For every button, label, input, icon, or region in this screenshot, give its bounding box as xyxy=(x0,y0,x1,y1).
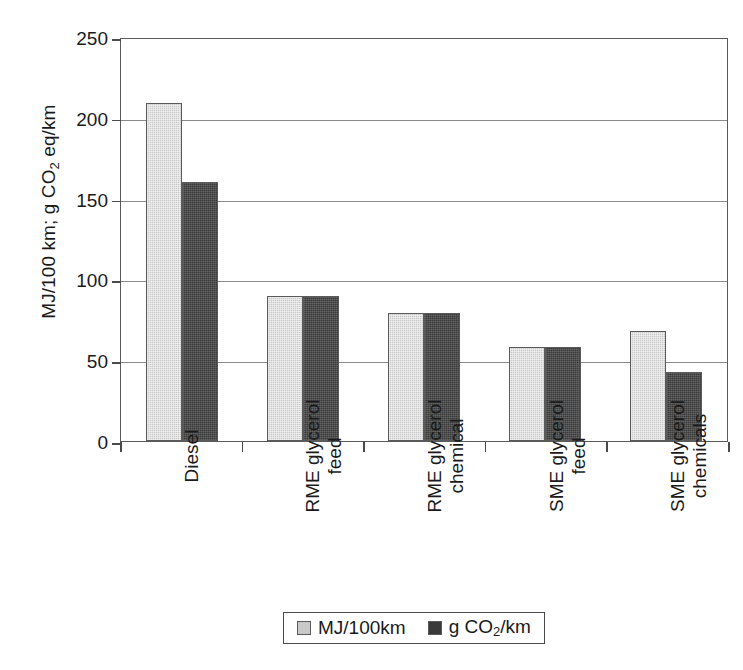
legend: MJ/100kmg CO2/km xyxy=(283,612,545,644)
legend-label: g CO2/km xyxy=(449,616,531,639)
y-tick-mark-100 xyxy=(112,281,121,283)
x-label-cell: SME glycerolfeed xyxy=(485,442,607,602)
x-axis-category-label: RME glycerolchemical xyxy=(424,400,468,513)
bar[interactable] xyxy=(388,313,424,441)
x-label-cell: RME glycerolfeed xyxy=(242,442,364,602)
x-label-cell: RME glycerolchemical xyxy=(363,442,485,602)
bar-group xyxy=(121,39,242,441)
y-axis-title-subscript: 2 xyxy=(47,162,62,169)
x-label-line-2: feed xyxy=(568,400,590,512)
bar-group xyxy=(606,39,727,441)
x-label-line-1: SME glycerol xyxy=(546,400,567,512)
x-label-line-1: SME glycerol xyxy=(667,400,688,512)
bar-group xyxy=(485,39,606,441)
y-tick-label-0: 0 xyxy=(48,432,108,454)
legend-item[interactable]: MJ/100km xyxy=(297,617,406,639)
bar-pair xyxy=(146,39,218,441)
y-tick-label-150: 150 xyxy=(48,190,108,212)
bar[interactable] xyxy=(182,182,218,441)
y-tick-label-250: 250 xyxy=(48,28,108,50)
x-axis-category-label: Diesel xyxy=(181,430,203,483)
bar-groups xyxy=(121,39,727,441)
bar-pair xyxy=(267,39,339,441)
x-axis-category-label: SME glycerolchemicals xyxy=(667,400,711,512)
bar[interactable] xyxy=(267,296,303,441)
bar-pair xyxy=(630,39,702,441)
bar[interactable] xyxy=(509,347,545,441)
x-axis-category-label: SME glycerolfeed xyxy=(546,400,590,512)
y-tick-label-200: 200 xyxy=(48,109,108,131)
legend-label: MJ/100km xyxy=(318,617,406,639)
x-label-cell: SME glycerolchemicals xyxy=(606,442,728,602)
x-label-line-2: feed xyxy=(324,400,346,513)
y-tick-mark-250 xyxy=(112,39,121,41)
bar-pair xyxy=(509,39,581,441)
y-tick-label-50: 50 xyxy=(48,351,108,373)
plot-area: 050100150200250 xyxy=(120,38,728,442)
x-label-line-2: chemical xyxy=(446,400,468,513)
x-label-cell: Diesel xyxy=(120,442,242,602)
x-axis-category-label: RME glycerolfeed xyxy=(302,400,346,513)
bar-group xyxy=(242,39,363,441)
bar[interactable] xyxy=(630,331,666,441)
x-label-line-2: chemicals xyxy=(689,400,711,512)
legend-swatch-icon xyxy=(297,621,311,635)
y-tick-label-100: 100 xyxy=(48,270,108,292)
x-label-line-1: RME glycerol xyxy=(302,400,323,513)
legend-swatch-icon xyxy=(428,621,442,635)
x-axis-labels: DieselRME glycerolfeedRME glycerolchemic… xyxy=(120,442,728,602)
y-tick-mark-150 xyxy=(112,201,121,203)
legend-item[interactable]: g CO2/km xyxy=(428,616,531,639)
bar-pair xyxy=(388,39,460,441)
x-tick-mark xyxy=(728,442,730,452)
x-label-line-1: Diesel xyxy=(181,430,202,483)
bar-chart-figure: MJ/100 km; g CO2 eq/km 050100150200250 D… xyxy=(0,0,743,670)
bar[interactable] xyxy=(146,103,182,441)
y-tick-mark-200 xyxy=(112,120,121,122)
bar-group xyxy=(363,39,484,441)
y-tick-mark-50 xyxy=(112,362,121,364)
x-label-line-1: RME glycerol xyxy=(424,400,445,513)
legend-label-subscript: 2 xyxy=(493,625,500,640)
